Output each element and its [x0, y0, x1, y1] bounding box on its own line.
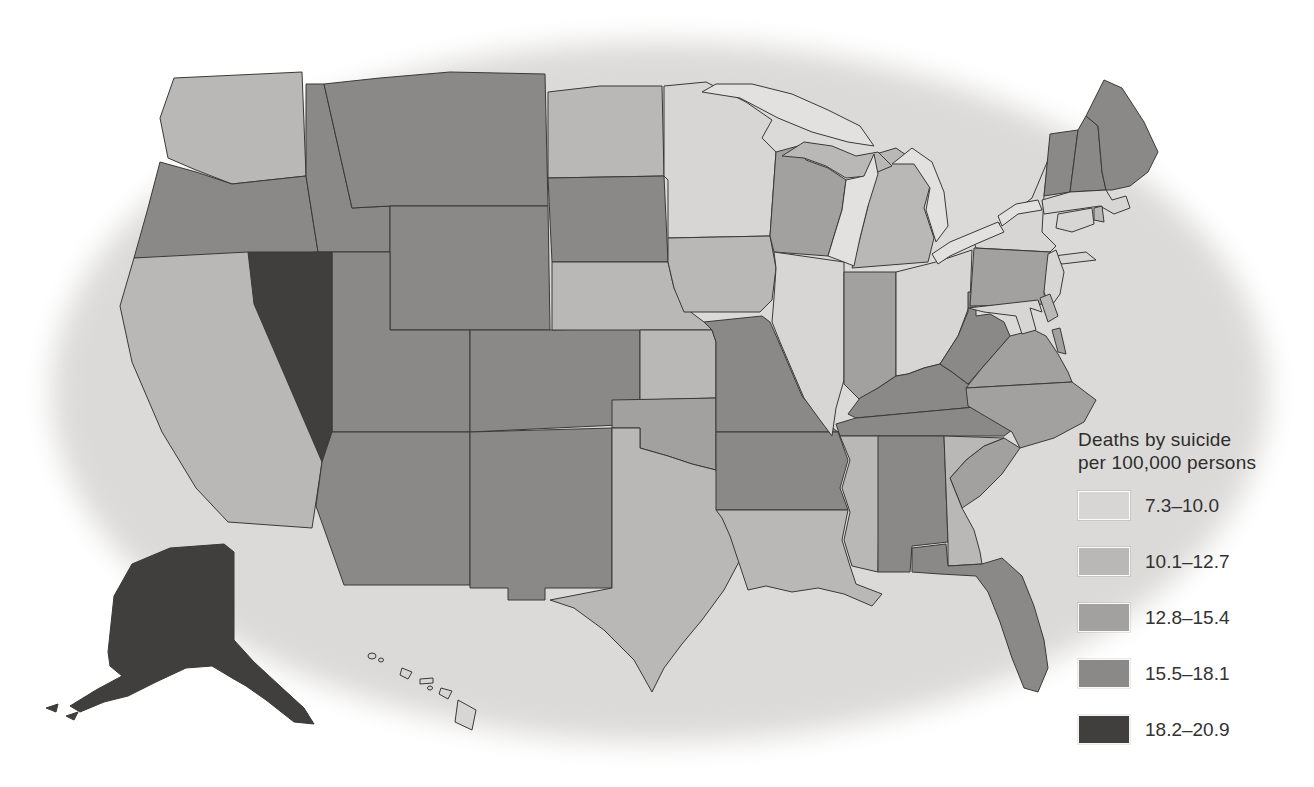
state-ia	[668, 236, 776, 312]
state-sd	[548, 176, 668, 262]
state-az	[316, 432, 470, 585]
state-nd	[548, 86, 664, 178]
legend-swatch-4	[1078, 659, 1130, 688]
state-ri	[1094, 206, 1104, 222]
legend-swatch-1	[1078, 491, 1130, 520]
legend-label-3: 12.8–15.4	[1145, 607, 1230, 629]
legend-item: 10.1–12.7	[1078, 548, 1308, 575]
state-wa	[160, 72, 306, 184]
legend-label-4: 15.5–18.1	[1145, 663, 1230, 685]
state-wy	[390, 206, 550, 330]
legend-item: 7.3–10.0	[1078, 492, 1308, 519]
state-ks	[640, 330, 716, 400]
state-ar	[716, 432, 848, 510]
legend-title-line2: per 100,000 persons	[1078, 451, 1308, 474]
legend-item: 12.8–15.4	[1078, 604, 1308, 631]
state-ak-island-2	[46, 704, 58, 712]
legend-title-line1: Deaths by suicide	[1078, 428, 1308, 451]
legend-item: 15.5–18.1	[1078, 660, 1308, 687]
map-legend: Deaths by suicide per 100,000 persons 7.…	[1078, 428, 1308, 772]
legend-title: Deaths by suicide per 100,000 persons	[1078, 428, 1308, 474]
state-mt	[324, 72, 548, 208]
state-ak-island-1	[66, 712, 78, 720]
legend-swatch-3	[1078, 603, 1130, 632]
legend-swatch-5	[1078, 715, 1130, 744]
state-hi-molokai	[420, 678, 433, 684]
state-hi-kauai	[368, 653, 376, 659]
legend-swatch-2	[1078, 547, 1130, 576]
legend-label-5: 18.2–20.9	[1145, 719, 1230, 741]
state-hi-lanai	[428, 686, 433, 690]
legend-item: 18.2–20.9	[1078, 716, 1308, 743]
state-hi-niihau	[379, 658, 384, 662]
state-nm	[470, 428, 612, 600]
legend-rows: 7.3–10.0 10.1–12.7 12.8–15.4 15.5–18.1 1…	[1078, 492, 1308, 743]
state-pa	[970, 248, 1050, 306]
legend-label-2: 10.1–12.7	[1145, 551, 1230, 573]
legend-label-1: 7.3–10.0	[1145, 495, 1219, 517]
